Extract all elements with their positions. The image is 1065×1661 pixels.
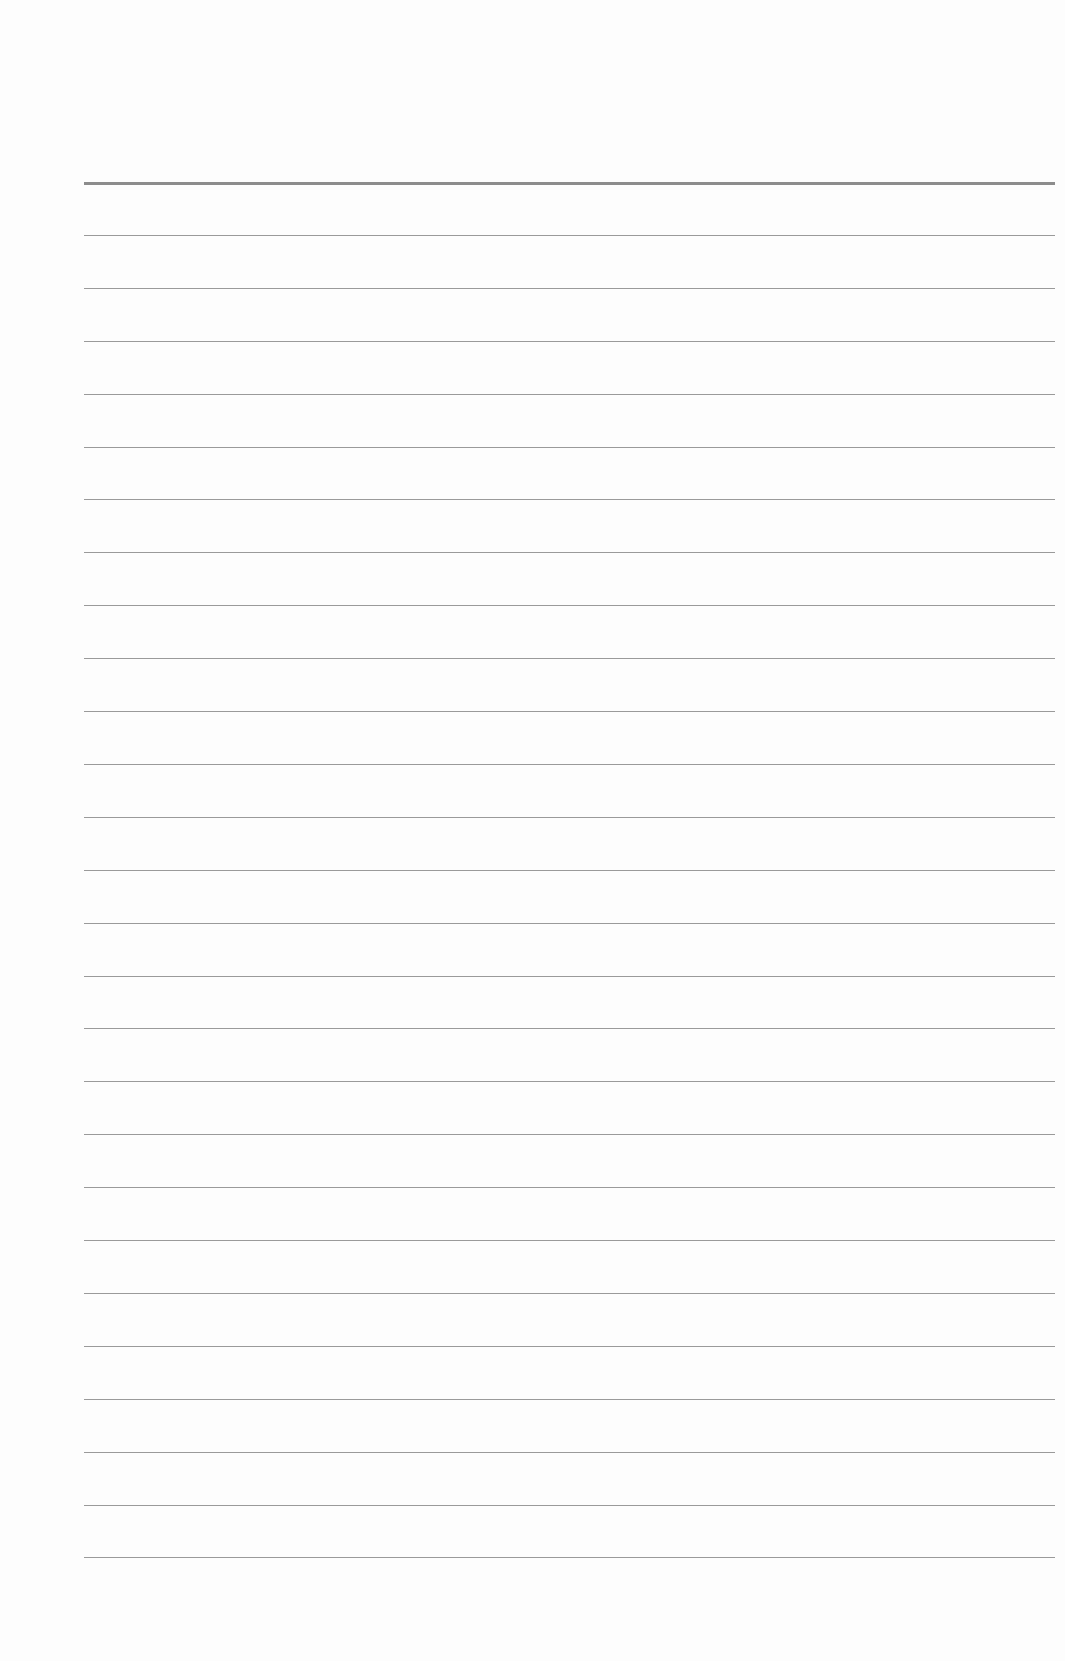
rule-line <box>84 341 1055 342</box>
rule-line <box>84 1505 1055 1506</box>
rule-line <box>84 764 1055 765</box>
rule-line <box>84 447 1055 448</box>
rule-line <box>84 605 1055 606</box>
rule-line <box>84 288 1055 289</box>
rule-line <box>84 1240 1055 1241</box>
rule-line <box>84 1293 1055 1294</box>
rule-line <box>84 1134 1055 1135</box>
rule-line <box>84 817 1055 818</box>
rule-line <box>84 235 1055 236</box>
rule-line <box>84 923 1055 924</box>
header-rule-line <box>84 182 1055 185</box>
rule-line <box>84 1081 1055 1082</box>
rule-line <box>84 1028 1055 1029</box>
rule-line <box>84 552 1055 553</box>
rule-line <box>84 499 1055 500</box>
rule-line <box>84 1557 1055 1558</box>
rule-line <box>84 711 1055 712</box>
rule-line <box>84 1346 1055 1347</box>
rule-line <box>84 976 1055 977</box>
rule-line <box>84 394 1055 395</box>
rule-line <box>84 1187 1055 1188</box>
lined-paper-page <box>0 0 1065 1661</box>
rule-line <box>84 1452 1055 1453</box>
rule-line <box>84 658 1055 659</box>
rule-line <box>84 1399 1055 1400</box>
rule-line <box>84 870 1055 871</box>
